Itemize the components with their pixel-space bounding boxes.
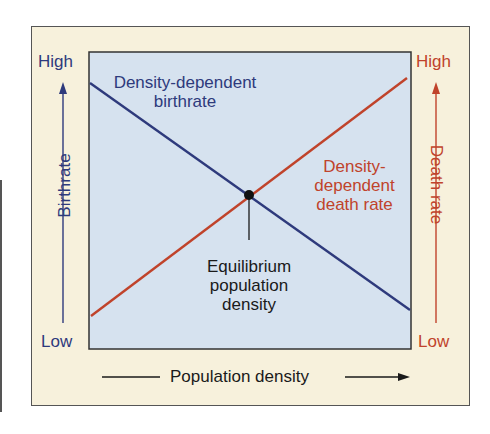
right-axis-low-label: Low xyxy=(418,332,449,351)
left-axis-high-label: High xyxy=(38,52,73,71)
x-axis-label: Population density xyxy=(170,367,309,386)
death-rate-curve-label: Density- dependent death rate xyxy=(302,157,407,214)
equilibrium-label-line3: density xyxy=(194,295,304,314)
x-axis-arrowhead xyxy=(398,373,410,381)
left-axis-low-label: Low xyxy=(41,332,72,351)
birthrate-label-line1: Density-dependent xyxy=(95,73,275,92)
death-rate-label-line2: dependent xyxy=(302,176,407,195)
equilibrium-label-line2: population xyxy=(194,276,304,295)
right-axis-high-label: High xyxy=(416,52,451,71)
death-rate-axis-arrowhead xyxy=(432,82,440,94)
equilibrium-label-line1: Equilibrium xyxy=(194,257,304,276)
equilibrium-point xyxy=(244,190,254,200)
birthrate-label-line2: birthrate xyxy=(95,92,275,111)
birthrate-curve-label: Density-dependent birthrate xyxy=(95,73,275,111)
death-rate-label-line3: death rate xyxy=(302,195,407,214)
birthrate-axis-arrowhead xyxy=(59,82,67,94)
death-rate-label-line1: Density- xyxy=(302,157,407,176)
birthrate-axis-label: Birthrate xyxy=(55,141,74,231)
death-rate-axis-label: Death rate xyxy=(427,139,446,231)
equilibrium-label: Equilibrium population density xyxy=(194,257,304,314)
